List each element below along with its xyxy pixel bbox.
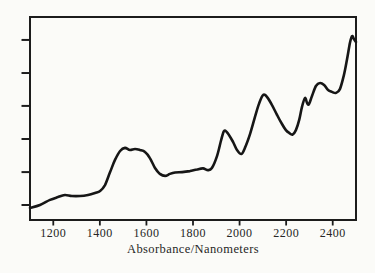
x-axis-title: Absorbance/Nanometers [30,242,356,257]
x-tick-label: 1200 [31,226,75,240]
spectrum-figure: 1200140016001800200022002400 Absorbance/… [0,0,375,273]
y-axis-ticks [22,40,31,205]
x-tick-label: 2200 [264,226,308,240]
x-tick-label: 1800 [171,226,215,240]
plot-border [30,17,356,220]
spectrum-curve [30,36,356,208]
x-tick-label: 1600 [124,226,168,240]
x-tick-label: 2000 [218,226,262,240]
x-tick-label: 2400 [311,226,355,240]
x-tick-label: 1400 [78,226,122,240]
